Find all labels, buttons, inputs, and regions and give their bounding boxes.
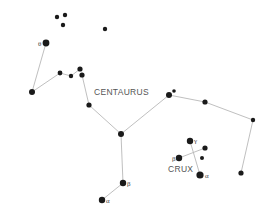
star-c1 (55, 15, 59, 19)
star-l5 (79, 72, 84, 77)
star-l1 (29, 89, 35, 95)
star-m1 (118, 131, 124, 137)
star-beta-cru (176, 155, 182, 161)
star-theta (43, 40, 50, 47)
star-l4 (77, 66, 82, 71)
star-l6 (86, 102, 91, 107)
star-eps-cru (200, 156, 204, 160)
centaurus-label: CENTAURUS (94, 87, 149, 97)
star-r4 (251, 118, 255, 122)
star-delta-cru (202, 145, 207, 150)
greek-label-alpha-cru: α (205, 172, 209, 180)
greek-label-beta-cen: β (127, 180, 131, 188)
greek-label-beta-cru: β (172, 155, 176, 163)
star-r2 (172, 89, 176, 93)
star-r1 (166, 92, 172, 98)
star-l3 (69, 74, 73, 78)
star-r5 (238, 170, 243, 175)
crux-label: CRUX (168, 164, 193, 174)
background (0, 0, 280, 222)
star-beta-cen (120, 180, 126, 186)
star-l2 (58, 71, 63, 76)
star-c4 (103, 27, 107, 31)
star-alpha-cru (196, 171, 203, 178)
greek-label-alpha-cen: α (106, 197, 110, 205)
constellation-diagram: θβαγβα CENTAURUS CRUX (0, 0, 280, 222)
greek-label-gamma-cru: γ (193, 137, 197, 145)
star-gamma-cru (187, 138, 193, 144)
star-r3 (202, 99, 207, 104)
star-c2 (63, 13, 67, 17)
star-alpha-cen (99, 197, 105, 203)
star-c3 (61, 23, 65, 27)
